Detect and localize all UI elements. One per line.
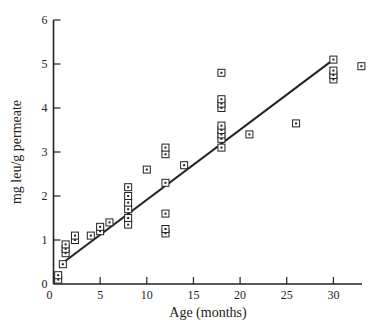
data-point: [218, 69, 225, 76]
data-point: [162, 144, 169, 151]
x-tick-label: 5: [97, 288, 103, 302]
data-point: [246, 131, 253, 138]
x-tick-label: 20: [234, 288, 246, 302]
data-point: [71, 232, 78, 239]
data-point: [125, 215, 132, 222]
x-tick-label: 10: [141, 288, 153, 302]
data-point: [97, 223, 104, 230]
axes: [54, 20, 363, 284]
y-tick-label: 2: [42, 189, 48, 203]
data-point: [162, 179, 169, 186]
y-axis-title: mg leu/g permeate: [9, 100, 24, 204]
y-tick-label: 4: [42, 101, 48, 115]
data-point: [106, 219, 113, 226]
data-point: [162, 151, 169, 158]
data-points: [55, 56, 365, 283]
data-point: [293, 120, 300, 127]
data-point: [143, 166, 150, 173]
data-point: [162, 226, 169, 233]
data-point: [330, 67, 337, 74]
data-point: [125, 193, 132, 200]
x-tick-label: 25: [281, 288, 293, 302]
y-tick-label: 6: [42, 13, 48, 27]
y-tick-label: 1: [42, 233, 48, 247]
y-tick-label: 5: [42, 57, 48, 71]
data-point: [125, 206, 132, 213]
data-point: [125, 184, 132, 191]
data-point: [125, 199, 132, 206]
scatter-chart: 0123456051015202530 Age (months) mg leu/…: [0, 0, 381, 328]
data-point: [181, 162, 188, 169]
data-point: [59, 261, 66, 268]
ticks: 0123456051015202530: [42, 13, 340, 302]
data-point: [218, 96, 225, 103]
data-point: [125, 221, 132, 228]
x-tick-label: 30: [327, 288, 339, 302]
data-point: [55, 272, 62, 279]
data-point: [87, 232, 94, 239]
data-point: [218, 144, 225, 151]
x-tick-label: 0: [47, 288, 53, 302]
x-tick-label: 15: [187, 288, 199, 302]
x-axis-title: Age (months): [169, 305, 247, 321]
y-tick-label: 3: [42, 145, 48, 159]
data-point: [162, 210, 169, 217]
data-point: [358, 63, 365, 70]
data-point: [330, 56, 337, 63]
data-point: [62, 241, 69, 248]
data-point: [218, 122, 225, 129]
